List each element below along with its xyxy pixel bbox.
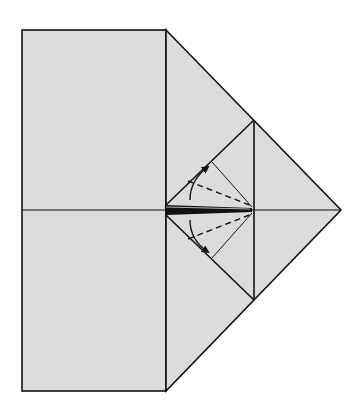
origami-diagram — [0, 0, 357, 416]
